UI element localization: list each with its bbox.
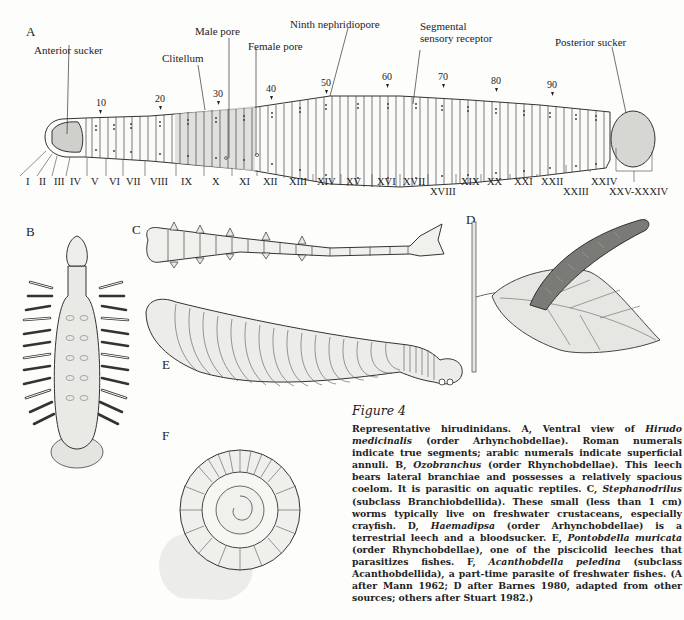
label-segmental-sensory-receptor-1: Segmental [420,20,466,32]
segment-label: XIII [289,176,307,187]
panel-label-e: E [162,357,170,373]
label-ninth-nephridiopore: Ninth nephridiopore [290,18,380,30]
taxon-name: Stephanodrilus [602,483,682,494]
segment-label: XII [263,176,278,187]
caption-text: Representative hirudinidans. A, Ventral … [352,423,682,604]
label-segmental-sensory-receptor-2: sensory receptor [420,32,492,44]
annulus-number: 50 [321,77,331,88]
taxon-name: Haemadipsa [431,520,495,531]
segment-label: X [212,176,220,187]
panel-label-c: C [132,222,141,238]
label-female-pore: Female pore [248,40,303,52]
segment-label: VI [109,176,120,187]
annulus-number: 80 [491,75,501,86]
segment-label: I [26,176,30,187]
segment-label: XXII [541,176,563,187]
segment-label: III [54,176,65,187]
panel-label-d: D [466,212,475,228]
label-clitellum: Clitellum [162,52,204,64]
label-anterior-sucker: Anterior sucker [34,44,103,56]
annulus-number: 30 [213,88,223,99]
segment-label: VII [126,176,141,187]
segment-label: II [39,176,46,187]
panel-label-b: B [26,224,35,240]
segment-label: XV [346,176,361,187]
annulus-number: 40 [266,83,276,94]
segment-label: XXI [514,176,533,187]
segment-label: VIII [150,176,168,187]
annulus-number: 10 [96,97,106,108]
label-male-pore: Male pore [195,25,240,37]
segment-label: IV [70,176,81,187]
segment-label: IX [181,176,192,187]
segment-label: XVII [403,176,425,187]
segment-label: XIV [317,176,336,187]
taxon-name: Acanthobdella peledina [488,556,620,567]
segment-label: XXIII [563,186,589,197]
annulus-number: 70 [438,71,448,82]
taxon-name: Ozobranchus [413,459,481,470]
segment-label: XVIII [430,186,456,197]
segment-label: XVI [377,176,396,187]
segment-label: XIX [461,176,480,187]
annulus-number: 90 [547,79,557,90]
segment-label: XI [239,176,250,187]
segment-label: XX [487,176,502,187]
segment-label: V [91,176,99,187]
figure-title: Figure 4 [352,403,406,418]
label-posterior-sucker: Posterior sucker [555,36,626,48]
taxon-name: Pontobdella muricata [567,532,682,543]
annulus-number: 60 [382,71,392,82]
panel-label-f: F [162,428,169,444]
caption-segment: Representative hirudinidans. A, Ventral … [352,423,645,434]
annulus-number: 20 [155,93,165,104]
segment-label: XXV-XXXIV [609,186,668,197]
